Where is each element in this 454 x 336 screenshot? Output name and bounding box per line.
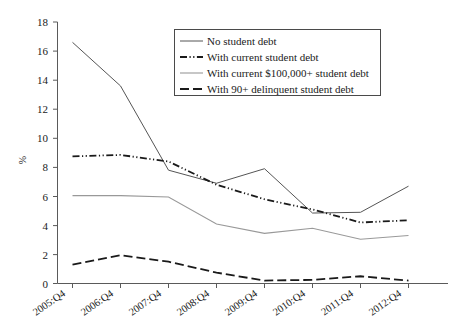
y-tick-label: 6 bbox=[43, 191, 49, 203]
legend-item-label: With 90+ delinquent student debt bbox=[207, 83, 354, 95]
x-axis-ticks bbox=[73, 284, 409, 289]
x-tick-label: 2010:Q4 bbox=[271, 287, 308, 318]
y-tick-label: 16 bbox=[37, 45, 49, 57]
y-tick-label: 0 bbox=[43, 278, 49, 290]
y-tick-label: 10 bbox=[37, 132, 49, 144]
y-axis-tick-labels: 18 16 14 12 10 8 6 4 2 0 bbox=[37, 16, 49, 290]
chart-canvas: 18 16 14 12 10 8 6 4 2 0 % 2005:Q4 2 bbox=[0, 0, 454, 336]
y-tick-label: 12 bbox=[37, 103, 48, 115]
y-tick-label: 18 bbox=[37, 16, 49, 28]
line-chart-figure: 18 16 14 12 10 8 6 4 2 0 % 2005:Q4 2 bbox=[0, 0, 454, 336]
x-tick-label: 2009:Q4 bbox=[223, 287, 260, 318]
x-tick-label: 2008:Q4 bbox=[175, 287, 212, 318]
y-tick-label: 8 bbox=[43, 161, 49, 173]
y-tick-label: 14 bbox=[37, 74, 49, 86]
x-tick-label: 2006:Q4 bbox=[79, 287, 116, 318]
chart-legend: No student debt With current student deb… bbox=[175, 30, 381, 96]
legend-item-label: No student debt bbox=[207, 35, 277, 47]
x-tick-label: 2012:Q4 bbox=[367, 287, 404, 318]
series-line bbox=[73, 196, 409, 240]
x-tick-label: 2011:Q4 bbox=[319, 287, 356, 317]
series-line bbox=[73, 255, 409, 280]
y-tick-label: 2 bbox=[43, 249, 49, 261]
y-axis-title: % bbox=[17, 156, 28, 164]
x-tick-label: 2007:Q4 bbox=[127, 287, 164, 318]
y-tick-label: 4 bbox=[43, 220, 49, 232]
x-axis-tick-labels: 2005:Q4 2006:Q4 2007:Q4 2008:Q4 2009:Q4 … bbox=[31, 287, 404, 318]
legend-item-label: With current $100,000+ student debt bbox=[207, 67, 369, 79]
x-tick-label: 2005:Q4 bbox=[31, 287, 68, 318]
legend-item-label: With current student debt bbox=[207, 51, 319, 63]
y-axis-ticks bbox=[53, 22, 58, 284]
